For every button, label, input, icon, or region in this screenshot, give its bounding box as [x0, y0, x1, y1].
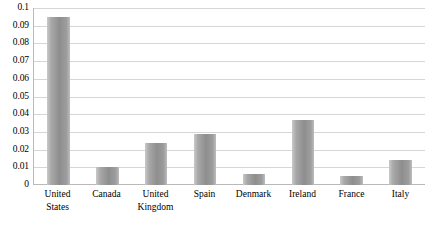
bar-chart: 00.010.020.030.040.050.060.070.080.090.1…: [0, 0, 425, 227]
y-axis-tick-label: 0.04: [13, 109, 29, 119]
x-axis-tick-label: Denmark: [229, 188, 278, 214]
bar-slot: [327, 8, 376, 185]
y-axis-tick-label: 0.01: [13, 163, 29, 173]
x-axis-tick-label: Italy: [376, 188, 425, 214]
bar[interactable]: [145, 143, 167, 185]
bar[interactable]: [96, 167, 118, 185]
bar[interactable]: [194, 134, 216, 185]
bar-slot: [132, 8, 181, 185]
x-axis-tick-label: Spain: [180, 188, 229, 214]
y-axis: 00.010.020.030.040.050.060.070.080.090.1: [0, 0, 33, 227]
y-axis-tick-label: 0.05: [13, 92, 29, 102]
bar-slot: [278, 8, 327, 185]
y-axis-tick-label: 0: [24, 180, 29, 190]
x-axis-tick-label: Ireland: [278, 188, 327, 214]
y-axis-tick-label: 0.02: [13, 145, 29, 155]
bar-slot: [34, 8, 83, 185]
x-axis-tick-label: Canada: [82, 188, 131, 214]
bar[interactable]: [389, 160, 411, 185]
y-axis-tick-label: 0.1: [17, 3, 29, 13]
y-axis-tick-label: 0.06: [13, 74, 29, 84]
y-axis-tick-label: 0.07: [13, 56, 29, 66]
x-axis-tick-label: France: [327, 188, 376, 214]
plot-area: [33, 8, 425, 185]
bar-slot: [83, 8, 132, 185]
bars-group: [34, 8, 425, 185]
y-axis-tick-label: 0.03: [13, 127, 29, 137]
bar-slot: [181, 8, 230, 185]
bar[interactable]: [340, 176, 362, 185]
bar-slot: [376, 8, 425, 185]
x-axis: United StatesCanadaUnited KingdomSpainDe…: [33, 188, 425, 214]
bar[interactable]: [292, 120, 314, 185]
x-axis-tick-label: United Kingdom: [131, 188, 180, 214]
x-axis-tick-label: United States: [33, 188, 82, 214]
y-axis-tick-label: 0.08: [13, 39, 29, 49]
y-axis-tick-label: 0.09: [13, 21, 29, 31]
bar-slot: [230, 8, 279, 185]
bar[interactable]: [47, 17, 69, 185]
bar[interactable]: [243, 174, 265, 185]
